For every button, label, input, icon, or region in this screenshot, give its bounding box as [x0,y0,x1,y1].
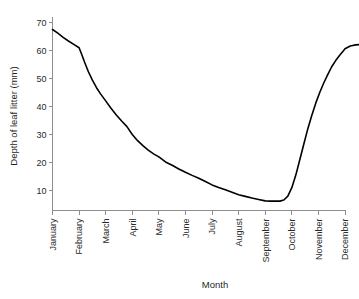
x-tick-label: December [340,218,350,260]
x-tick-label: November [314,218,324,260]
x-tick-label: October [287,218,297,250]
x-tick-label: September [261,219,271,263]
y-tick-label: 40 [36,102,46,112]
y-tick-label: 60 [36,46,46,56]
x-tick-label: March [101,219,111,244]
y-axis-title: Depth of leaf litter (mm) [8,66,19,165]
x-axis-title: Month [202,279,228,290]
y-tick-label: 50 [36,74,46,84]
leaf-litter-line-chart: 10203040506070 JanuaryFebruaryMarchApril… [0,0,359,299]
x-tick-label: August [234,218,244,247]
x-tick-label: July [207,218,217,235]
y-tick-label: 30 [36,130,46,140]
chart-background [0,0,359,299]
y-tick-label: 70 [36,18,46,28]
x-tick-label: February [74,218,84,255]
x-tick-label: May [154,218,164,236]
x-tick-label: June [181,219,191,239]
y-tick-label: 20 [36,158,46,168]
x-tick-label: January [48,218,58,251]
chart-figure: 10203040506070 JanuaryFebruaryMarchApril… [0,0,359,299]
y-tick-label: 10 [36,186,46,196]
x-tick-label: April [128,219,138,237]
